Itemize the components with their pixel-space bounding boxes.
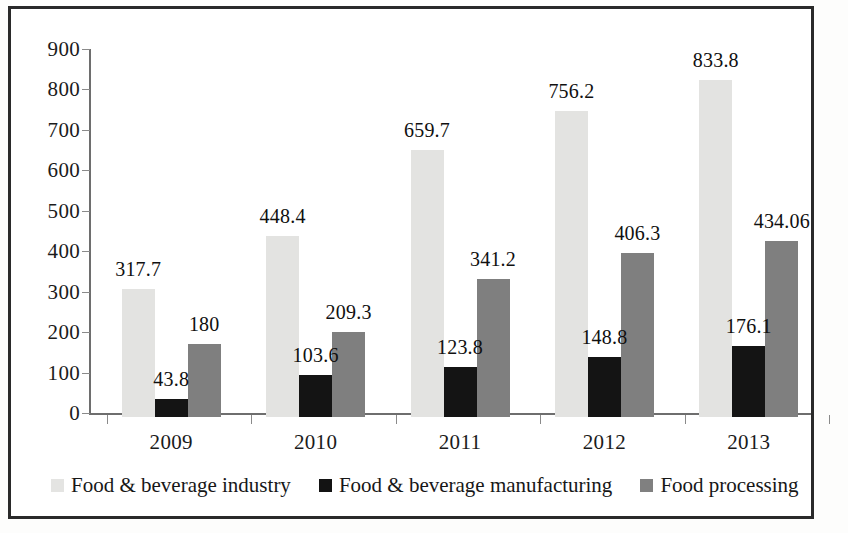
- x-axis-category-label: 2011: [439, 430, 481, 455]
- y-axis-tick: [82, 413, 90, 414]
- y-axis-tick: [82, 292, 90, 293]
- y-axis-tick-label: 200: [48, 320, 80, 345]
- y-axis-tick-label: 300: [48, 279, 80, 304]
- bar-value-label: 833.8: [693, 49, 739, 72]
- x-axis-category-label: 2012: [583, 430, 626, 455]
- legend-item-label: Food processing: [660, 473, 798, 498]
- y-axis-tick-label: 800: [48, 77, 80, 102]
- legend-item-label: Food & beverage industry: [71, 473, 291, 498]
- legend-swatch-icon: [51, 479, 64, 492]
- plot-area: 0100200300400500600700800900 20092010201…: [89, 49, 811, 419]
- bar-2013-series-1: [732, 346, 765, 417]
- y-axis-tick-label: 500: [48, 198, 80, 223]
- y-axis-tick-label: 400: [48, 239, 80, 264]
- bar-2009-series-0: [122, 289, 155, 417]
- legend-item[interactable]: Food processing: [640, 473, 798, 498]
- y-axis-tick: [82, 130, 90, 131]
- bar-2010-series-1: [299, 375, 332, 417]
- bar-value-label: 341.2: [470, 248, 516, 271]
- x-axis-tick: [829, 415, 830, 424]
- x-axis-tick: [251, 415, 252, 424]
- y-axis-tick-label: 600: [48, 158, 80, 183]
- bar-2011-series-0: [411, 150, 444, 417]
- y-axis-line: [89, 49, 91, 415]
- y-axis-tick: [82, 211, 90, 212]
- bar-value-label: 103.6: [293, 344, 339, 367]
- x-axis-category-label: 2010: [294, 430, 337, 455]
- bar-value-label: 448.4: [260, 205, 306, 228]
- x-axis-tick: [396, 415, 397, 424]
- chart-frame-border: 0100200300400500600700800900 20092010201…: [8, 6, 814, 519]
- bar-2012-series-1: [588, 357, 621, 417]
- legend-item[interactable]: Food & beverage manufacturing: [319, 473, 613, 498]
- bar-value-label: 756.2: [548, 80, 594, 103]
- y-axis-tick: [82, 170, 90, 171]
- bar-2010-series-0: [266, 236, 299, 417]
- bar-2013-series-0: [699, 80, 732, 417]
- y-axis-tick: [82, 89, 90, 90]
- y-axis-tick-label: 100: [48, 360, 80, 385]
- legend-item-label: Food & beverage manufacturing: [339, 473, 613, 498]
- x-axis-tick: [685, 415, 686, 424]
- bar-value-label: 659.7: [404, 119, 450, 142]
- legend-swatch-icon: [640, 479, 653, 492]
- legend-item[interactable]: Food & beverage industry: [51, 473, 291, 498]
- bar-value-label: 180: [189, 313, 220, 336]
- bar-2012-series-0: [555, 111, 588, 417]
- bar-2011-series-1: [444, 367, 477, 417]
- bar-2009-series-1: [155, 399, 188, 417]
- bar-value-label: 406.3: [614, 222, 660, 245]
- x-axis-tick: [107, 415, 108, 424]
- x-axis-category-label: 2009: [150, 430, 193, 455]
- bar-value-label: 176.1: [726, 315, 772, 338]
- y-axis-tick: [82, 332, 90, 333]
- chart-page: 0100200300400500600700800900 20092010201…: [0, 0, 848, 533]
- y-axis-tick: [82, 251, 90, 252]
- y-axis-tick-label: 0: [69, 401, 80, 426]
- y-axis-tick: [82, 373, 90, 374]
- bar-value-label: 434.06: [754, 210, 810, 233]
- bar-value-label: 123.8: [437, 336, 483, 359]
- x-axis-tick: [540, 415, 541, 424]
- chart-legend: Food & beverage industryFood & beverage …: [51, 467, 791, 503]
- legend-swatch-icon: [319, 479, 332, 492]
- y-axis-tick-label: 700: [48, 117, 80, 142]
- y-axis-tick: [82, 49, 90, 50]
- bar-value-label: 209.3: [326, 301, 372, 324]
- bar-value-label: 317.7: [115, 258, 161, 281]
- x-axis-category-label: 2013: [727, 430, 770, 455]
- bar-value-label: 148.8: [581, 326, 627, 349]
- y-axis-tick-label: 900: [48, 37, 80, 62]
- bar-value-label: 43.8: [153, 368, 189, 391]
- bar-2009-series-2: [188, 344, 221, 417]
